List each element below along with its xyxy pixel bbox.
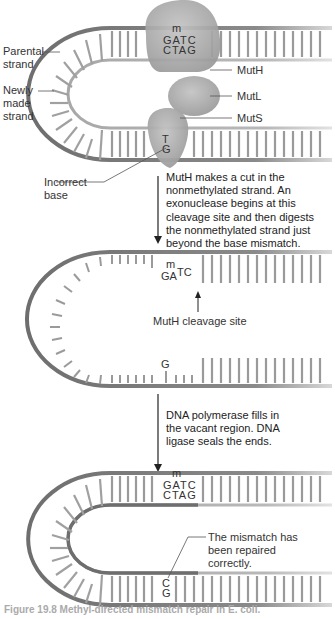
unpaired-g: G xyxy=(161,358,170,370)
incorrect-base-label: Incorrect base xyxy=(44,176,92,202)
methyl-mark-1: m xyxy=(172,22,181,34)
tc-bases-2: TC xyxy=(177,266,192,278)
repaired-g: G xyxy=(162,587,171,599)
step-arrow-1 xyxy=(154,176,162,244)
ctag-site-1: CTAG xyxy=(163,44,197,56)
ga-bases-2: GA xyxy=(161,270,178,282)
mismatch-g: G xyxy=(162,143,171,155)
figure-caption: Figure 19.8 Methyl-directed mismatch rep… xyxy=(4,604,260,615)
mutl-label: MutL xyxy=(237,90,261,103)
step-2-description: DNA polymerase fills in the vacant regio… xyxy=(166,409,284,449)
mismatch-repair-diagram: m GATC CTAG T G xyxy=(0,0,335,619)
cleavage-site-label: MutH cleavage site xyxy=(153,315,247,328)
step-arrow-2 xyxy=(154,394,162,472)
methyl-mark-3: m xyxy=(172,467,181,479)
muts-label: MutS xyxy=(237,112,263,125)
parental-strand-label: Parental strand xyxy=(3,45,43,71)
ctag-site-3: CTAG xyxy=(163,489,197,501)
step-1-description: MutH makes a cut in the nonmethylated st… xyxy=(166,171,316,250)
methyl-mark-2: m xyxy=(166,258,175,270)
cleavage-site-arrow xyxy=(195,291,201,312)
muth-label: MutH xyxy=(237,64,263,77)
repaired-label: The mismatch has been repaired correctly… xyxy=(208,531,318,570)
newly-made-strand-label: Newly made strand xyxy=(3,84,39,123)
